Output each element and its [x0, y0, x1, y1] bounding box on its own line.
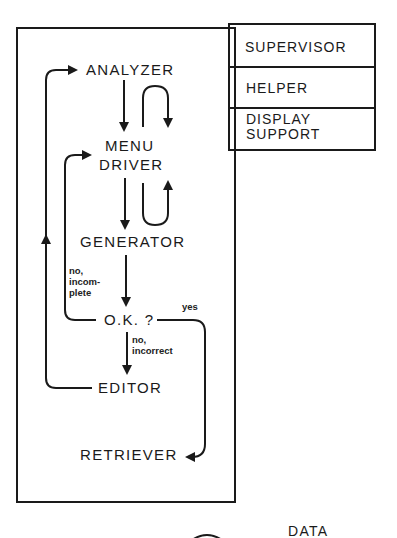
node-generator: GENERATOR	[80, 234, 185, 250]
node-menu-driver-line1: MENU	[105, 138, 154, 154]
flow-diagram-lines	[0, 0, 397, 538]
node-retriever: RETRIEVER	[80, 447, 178, 463]
edge-label-no-incomplete-1: no,	[69, 266, 83, 276]
node-menu-driver-line2: DRIVER	[99, 157, 163, 173]
edge-label-no-incorrect-1: no,	[132, 335, 146, 345]
module-helper: HELPER	[246, 81, 308, 96]
data-label: DATA	[288, 523, 328, 538]
edge-label-no-incomplete-2: incom-	[69, 277, 100, 287]
module-display-support-line1: DISPLAY	[246, 112, 311, 127]
edge-label-no-incorrect-2: incorrect	[132, 346, 173, 356]
module-supervisor: SUPERVISOR	[245, 40, 347, 55]
node-analyzer: ANALYZER	[86, 62, 174, 78]
edge-label-no-incomplete-3: plete	[69, 288, 91, 298]
module-display-support-line2: SUPPORT	[246, 127, 320, 142]
node-editor: EDITOR	[98, 380, 162, 396]
node-ok-check: O.K. ?	[104, 312, 154, 328]
edge-label-yes: yes	[182, 302, 198, 312]
